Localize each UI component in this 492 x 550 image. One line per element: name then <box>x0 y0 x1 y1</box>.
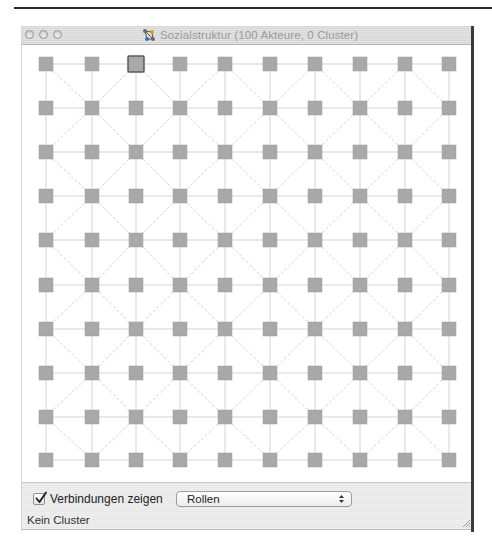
actor-node[interactable] <box>39 453 53 467</box>
actor-node[interactable] <box>353 145 367 159</box>
actor-node[interactable] <box>308 322 322 336</box>
actor-node[interactable] <box>129 145 143 159</box>
actor-node[interactable] <box>398 57 412 71</box>
actor-node[interactable] <box>173 366 187 380</box>
actor-node[interactable] <box>308 101 322 115</box>
actor-node[interactable] <box>218 453 232 467</box>
resize-grip-icon[interactable] <box>461 518 471 528</box>
actor-node[interactable] <box>218 145 232 159</box>
actor-node[interactable] <box>218 233 232 247</box>
actor-node[interactable] <box>85 453 99 467</box>
actor-node[interactable] <box>353 366 367 380</box>
actor-node[interactable] <box>308 233 322 247</box>
actor-node[interactable] <box>442 453 456 467</box>
actor-node[interactable] <box>442 101 456 115</box>
actor-node[interactable] <box>39 145 53 159</box>
actor-node[interactable] <box>263 366 277 380</box>
actor-node[interactable] <box>85 410 99 424</box>
actor-node[interactable] <box>442 145 456 159</box>
actor-node[interactable] <box>39 233 53 247</box>
actor-node[interactable] <box>442 322 456 336</box>
actor-node[interactable] <box>173 453 187 467</box>
actor-node[interactable] <box>173 233 187 247</box>
actor-node[interactable] <box>85 322 99 336</box>
actor-node-selected[interactable] <box>128 56 144 72</box>
actor-node[interactable] <box>442 233 456 247</box>
actor-node[interactable] <box>39 278 53 292</box>
actor-node[interactable] <box>85 145 99 159</box>
actor-node[interactable] <box>442 410 456 424</box>
actor-node[interactable] <box>85 101 99 115</box>
actor-node[interactable] <box>129 101 143 115</box>
actor-node[interactable] <box>85 189 99 203</box>
actor-node[interactable] <box>353 278 367 292</box>
actor-node[interactable] <box>263 189 277 203</box>
actor-node[interactable] <box>173 189 187 203</box>
actor-node[interactable] <box>308 57 322 71</box>
actor-node[interactable] <box>218 57 232 71</box>
actor-node[interactable] <box>218 366 232 380</box>
actor-node[interactable] <box>308 366 322 380</box>
actor-node[interactable] <box>398 322 412 336</box>
actor-node[interactable] <box>39 322 53 336</box>
actor-node[interactable] <box>398 410 412 424</box>
actor-node[interactable] <box>398 453 412 467</box>
actor-node[interactable] <box>353 189 367 203</box>
actor-node[interactable] <box>173 101 187 115</box>
actor-node[interactable] <box>218 101 232 115</box>
actor-node[interactable] <box>308 453 322 467</box>
actor-node[interactable] <box>218 410 232 424</box>
actor-node[interactable] <box>353 322 367 336</box>
zoom-button[interactable] <box>53 30 62 39</box>
actor-node[interactable] <box>129 278 143 292</box>
actor-node[interactable] <box>398 101 412 115</box>
actor-node[interactable] <box>398 145 412 159</box>
actor-node[interactable] <box>129 410 143 424</box>
actor-node[interactable] <box>353 101 367 115</box>
actor-node[interactable] <box>442 189 456 203</box>
actor-node[interactable] <box>39 101 53 115</box>
actor-node[interactable] <box>85 57 99 71</box>
actor-node[interactable] <box>353 410 367 424</box>
actor-node[interactable] <box>173 145 187 159</box>
actor-node[interactable] <box>129 366 143 380</box>
actor-node[interactable] <box>129 322 143 336</box>
social-network-graph-canvas[interactable] <box>22 45 472 482</box>
actor-node[interactable] <box>173 278 187 292</box>
actor-node[interactable] <box>308 145 322 159</box>
actor-node[interactable] <box>353 57 367 71</box>
actor-node[interactable] <box>398 233 412 247</box>
actor-node[interactable] <box>442 366 456 380</box>
actor-node[interactable] <box>85 366 99 380</box>
actor-node[interactable] <box>85 233 99 247</box>
actor-node[interactable] <box>263 101 277 115</box>
actor-node[interactable] <box>398 278 412 292</box>
minimize-button[interactable] <box>39 30 48 39</box>
actor-node[interactable] <box>85 278 99 292</box>
actor-node[interactable] <box>398 366 412 380</box>
graph-svg[interactable] <box>22 45 472 482</box>
actor-node[interactable] <box>398 189 412 203</box>
actor-node[interactable] <box>218 322 232 336</box>
show-connections-checkbox[interactable] <box>33 493 45 505</box>
actor-node[interactable] <box>39 57 53 71</box>
actor-node[interactable] <box>263 453 277 467</box>
actor-node[interactable] <box>173 57 187 71</box>
actor-node[interactable] <box>263 145 277 159</box>
actor-node[interactable] <box>353 453 367 467</box>
actor-node[interactable] <box>308 410 322 424</box>
actor-node[interactable] <box>263 322 277 336</box>
color-mode-select[interactable]: Rollen <box>176 491 352 507</box>
actor-node[interactable] <box>263 278 277 292</box>
actor-node[interactable] <box>263 233 277 247</box>
actor-node[interactable] <box>218 189 232 203</box>
actor-node[interactable] <box>308 278 322 292</box>
title-bar[interactable]: Sozialstruktur (100 Akteure, 0 Cluster) <box>22 26 472 45</box>
actor-node[interactable] <box>442 57 456 71</box>
show-connections-toggle[interactable]: Verbindungen zeigen <box>33 492 163 506</box>
actor-node[interactable] <box>218 278 232 292</box>
actor-node[interactable] <box>263 57 277 71</box>
actor-node[interactable] <box>129 233 143 247</box>
actor-node[interactable] <box>173 410 187 424</box>
actor-node[interactable] <box>39 366 53 380</box>
